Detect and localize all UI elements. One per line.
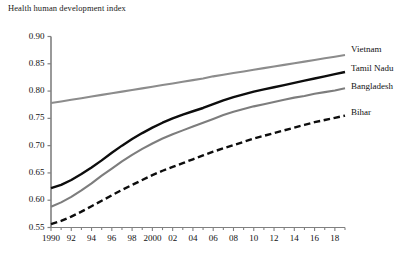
- x-tick-label: 2000: [143, 233, 161, 243]
- x-tick-label: 18: [330, 233, 339, 243]
- series-label-tamil-nadu: Tamil Nadu: [351, 63, 394, 73]
- x-tick-label: 96: [107, 233, 116, 243]
- y-tick-label: 0.85: [17, 58, 45, 68]
- x-tick-label: 94: [87, 233, 96, 243]
- data-series-group: [51, 55, 345, 224]
- y-tick-label: 0.65: [17, 167, 45, 177]
- x-tick-label: 98: [128, 233, 137, 243]
- x-tick-label: 16: [310, 233, 319, 243]
- series-label-bangladesh: Bangladesh: [351, 81, 393, 91]
- x-tick-label: 02: [168, 233, 177, 243]
- x-tick-label: 92: [67, 233, 76, 243]
- x-tick-label: 06: [209, 233, 218, 243]
- plot-area: [0, 0, 411, 255]
- series-label-bihar: Bihar: [351, 107, 371, 117]
- axes: [48, 37, 346, 232]
- y-tick-label: 0.60: [17, 194, 45, 204]
- y-tick-label: 0.80: [17, 85, 45, 95]
- series-label-vietnam: Vietnam: [351, 44, 381, 54]
- x-tick-label: 12: [270, 233, 279, 243]
- y-tick-label: 0.75: [17, 112, 45, 122]
- y-tick-label: 0.55: [17, 222, 45, 232]
- x-tick-label: 14: [290, 233, 299, 243]
- series-line-bihar: [51, 116, 345, 225]
- x-tick-label: 1990: [42, 233, 60, 243]
- x-tick-label: 10: [249, 233, 258, 243]
- y-tick-label: 0.90: [17, 31, 45, 41]
- chart-figure: Health human development index 0.550.600…: [0, 0, 411, 255]
- y-tick-label: 0.70: [17, 140, 45, 150]
- series-line-bangladesh: [51, 88, 345, 206]
- series-line-tamil-nadu: [51, 72, 345, 188]
- x-tick-label: 08: [229, 233, 238, 243]
- x-tick-label: 04: [188, 233, 197, 243]
